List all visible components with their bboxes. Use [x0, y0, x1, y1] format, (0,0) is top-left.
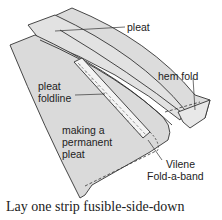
label-pleat-foldline-1: pleat — [38, 80, 61, 92]
caption: Lay one strip fusible-side-down — [6, 199, 184, 215]
pleat-illustration — [0, 0, 222, 220]
label-making-2: permanent — [62, 136, 112, 148]
label-vilene-2: Fold-a-band — [147, 170, 204, 182]
label-making-3: pleat — [62, 148, 85, 160]
label-making-1: making a — [62, 124, 105, 136]
label-vilene-1: Vilene — [166, 158, 195, 170]
label-hem-fold: hem fold — [158, 70, 198, 82]
label-pleat-foldline-2: foldline — [38, 92, 71, 104]
label-pleat: pleat — [127, 21, 150, 33]
